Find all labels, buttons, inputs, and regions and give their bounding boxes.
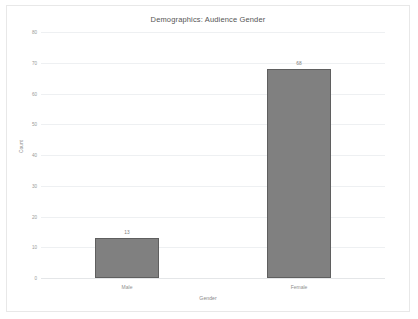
gridline — [41, 186, 385, 187]
y-axis-tick-label: 60 — [13, 91, 37, 96]
gridline — [41, 247, 385, 248]
y-axis-tick-label: 0 — [13, 276, 37, 281]
y-axis-tick-label: 80 — [13, 30, 37, 35]
bar-male[interactable] — [95, 238, 159, 278]
gridline — [41, 63, 385, 64]
plot-area: 13Male68Female — [41, 32, 385, 278]
x-axis-tick-label: Female — [267, 284, 331, 290]
bar-group: 68Female — [267, 32, 331, 278]
gridline — [41, 278, 385, 279]
chart-title: Demographics: Audience Gender — [7, 15, 409, 24]
x-axis-title: Gender — [7, 295, 409, 301]
x-axis-tick-label: Male — [95, 284, 159, 290]
gridline — [41, 155, 385, 156]
y-axis-tick-label: 20 — [13, 214, 37, 219]
gridline — [41, 94, 385, 95]
y-axis-tick-label: 30 — [13, 183, 37, 188]
y-axis-tick-label: 40 — [13, 153, 37, 158]
y-axis-tick-label: 50 — [13, 122, 37, 127]
bar-value-label: 68 — [267, 61, 331, 66]
bar-female[interactable] — [267, 69, 331, 278]
y-axis-tick-labels: 01020304050607080 — [11, 32, 37, 278]
gridline — [41, 217, 385, 218]
y-axis-tick-label: 10 — [13, 245, 37, 250]
bar-group: 13Male — [95, 32, 159, 278]
chart-frame: Demographics: Audience Gender Count 0102… — [6, 5, 410, 312]
y-axis-tick-label: 70 — [13, 60, 37, 65]
gridline — [41, 124, 385, 125]
gridline — [41, 32, 385, 33]
bar-value-label: 13 — [95, 230, 159, 235]
